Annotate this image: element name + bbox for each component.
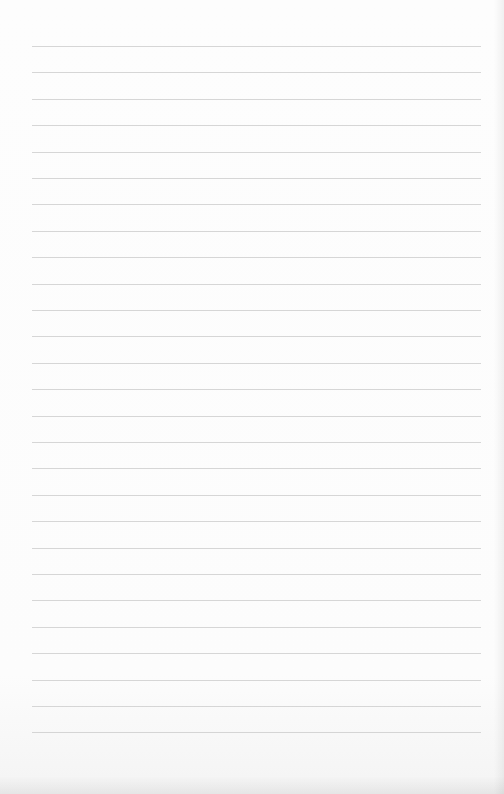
ruled-line bbox=[32, 442, 481, 443]
ruled-line bbox=[32, 574, 481, 575]
ruled-line bbox=[32, 548, 481, 549]
ruled-line bbox=[32, 152, 481, 153]
ruled-line bbox=[32, 204, 481, 205]
ruled-line bbox=[32, 680, 481, 681]
ruled-line bbox=[32, 600, 481, 601]
ruled-line bbox=[32, 46, 481, 47]
ruled-line bbox=[32, 310, 481, 311]
lined-paper-page bbox=[0, 0, 504, 794]
ruled-line bbox=[32, 627, 481, 628]
ruled-line bbox=[32, 416, 481, 417]
ruled-line bbox=[32, 336, 481, 337]
ruled-line bbox=[32, 178, 481, 179]
ruled-line bbox=[32, 732, 481, 733]
ruled-line bbox=[32, 257, 481, 258]
ruled-line bbox=[32, 389, 481, 390]
ruled-line bbox=[32, 468, 481, 469]
ruled-line bbox=[32, 284, 481, 285]
ruled-line bbox=[32, 653, 481, 654]
ruled-line bbox=[32, 231, 481, 232]
ruled-line bbox=[32, 706, 481, 707]
page-bottom-shadow bbox=[0, 776, 504, 794]
ruled-line bbox=[32, 495, 481, 496]
ruled-line bbox=[32, 72, 481, 73]
ruled-line bbox=[32, 521, 481, 522]
ruled-line bbox=[32, 363, 481, 364]
ruled-line bbox=[32, 99, 481, 100]
ruled-line bbox=[32, 125, 481, 126]
